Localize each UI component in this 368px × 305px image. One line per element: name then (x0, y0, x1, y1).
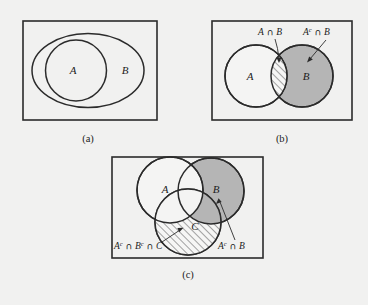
panel-b-label-b: B (303, 70, 310, 82)
panel-b: A B A ∩ B Ac ∩ B (b) (205, 14, 360, 149)
panel-c-label-c: C (191, 220, 199, 232)
panel-b-caption: (b) (276, 133, 289, 145)
panel-c: A B C Ac ∩ Bc ∩ C Ac ∩ B (c) (104, 150, 274, 300)
panel-a-label-a: A (69, 64, 77, 76)
panel-b-annotation-ac-intersect-b: Ac ∩ B (302, 26, 330, 37)
panel-c-annotation-ac-intersect-b: Ac ∩ B (217, 240, 245, 251)
panel-c-label-b: B (213, 183, 220, 195)
figure-root: A B (a) A B A ∩ B (0, 0, 368, 305)
panel-b-label-a: A (246, 70, 254, 82)
panel-b-annotation-a-intersect-b: A ∩ B (257, 27, 282, 37)
panel-a: A B (a) (14, 14, 174, 149)
panel-c-caption: (c) (182, 269, 194, 281)
panel-a-universe-rectangle (23, 21, 157, 120)
panel-a-caption: (a) (82, 133, 94, 145)
panel-a-label-b: B (122, 64, 129, 76)
panel-c-label-a: A (161, 183, 169, 195)
